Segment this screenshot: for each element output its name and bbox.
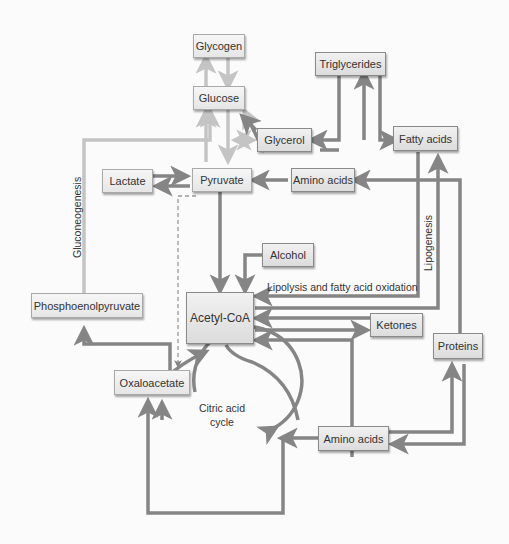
node-label: Glucose: [199, 92, 239, 104]
node-label: Lactate: [109, 175, 145, 187]
node-glycogen: Glycogen: [193, 34, 245, 58]
node-lactate: Lactate: [102, 169, 153, 193]
node-oxaloacetate: Oxaloacetate: [114, 370, 190, 395]
node-alcohol: Alcohol: [262, 243, 314, 267]
node-acetyl-coa: Acetyl-CoA: [186, 292, 254, 344]
node-label: Acetyl-CoA: [190, 311, 250, 325]
node-label: Triglycerides: [320, 58, 382, 70]
label-line: cycle: [192, 415, 252, 429]
node-glucose: Glucose: [193, 86, 245, 110]
node-amino-acids-top: Amino acids: [291, 168, 355, 192]
node-glycerol: Glycerol: [257, 128, 312, 152]
metabolism-diagram: Glycogen Glucose Triglycerides Glycerol …: [0, 0, 509, 544]
node-amino-acids-bottom: Amino acids: [318, 426, 389, 451]
node-label: Amino acids: [324, 433, 384, 445]
node-label: Amino acids: [293, 174, 353, 186]
pathway-arrows: [0, 0, 509, 544]
node-label: Oxaloacetate: [120, 377, 185, 389]
node-label: Fatty acids: [399, 133, 452, 145]
node-pyruvate: Pyruvate: [192, 168, 252, 192]
label-citric-acid-cycle: Citric acid cycle: [192, 401, 252, 429]
node-phosphoenolpyruvate: Phosphoenolpyruvate: [31, 293, 143, 318]
node-triglycerides: Triglycerides: [315, 52, 386, 76]
node-ketones: Ketones: [370, 313, 423, 337]
node-label: Alcohol: [270, 249, 306, 261]
label-lipogenesis: Lipogenesis: [422, 215, 434, 271]
label-line: Citric acid: [192, 401, 252, 415]
node-label: Proteins: [438, 340, 478, 352]
node-label: Phosphoenolpyruvate: [34, 300, 140, 312]
node-label: Pyruvate: [200, 174, 243, 186]
node-proteins: Proteins: [433, 333, 483, 359]
label-lipolysis: Lipolysis and fatty acid oxidation: [267, 281, 418, 293]
node-fatty-acids: Fatty acids: [393, 126, 458, 151]
node-label: Glycogen: [196, 40, 242, 52]
label-gluconeogenesis: Gluconeogenesis: [71, 177, 83, 258]
node-label: Glycerol: [264, 134, 304, 146]
node-label: Ketones: [376, 319, 416, 331]
